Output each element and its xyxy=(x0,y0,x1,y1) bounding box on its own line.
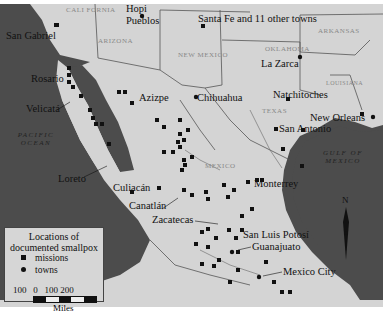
town-label: Natchitoches xyxy=(273,90,328,101)
town-label: Chihuahua xyxy=(197,93,243,104)
town-label: Canatlán xyxy=(129,201,166,212)
town-label: San Antonio xyxy=(279,124,331,135)
town-label: Culiacán xyxy=(113,183,150,194)
region-label: NEW MEXICO xyxy=(178,52,228,59)
town-label: Azizpe xyxy=(139,93,169,104)
ocean-label-pacific: PACIFIC OCEAN xyxy=(12,132,60,147)
legend-towns: towns xyxy=(35,265,58,275)
region-label: TEXAS xyxy=(262,108,287,115)
town-label: HopiPueblos xyxy=(126,3,166,27)
town-label: New Orleans xyxy=(310,113,365,124)
town-label: Monterrey xyxy=(254,179,298,190)
town-label: San Gabriel xyxy=(6,31,56,42)
town-label: Guanajuato xyxy=(252,242,300,253)
region-label: ARIZONA xyxy=(98,38,133,45)
region-label: OKLAHOMA xyxy=(265,46,310,53)
legend-title: Locations of documented smallpox xyxy=(5,231,103,253)
map-legend: Locations of documented smallpox mission… xyxy=(4,227,104,302)
scale-bar xyxy=(33,296,97,303)
region-label: LOUISIANA xyxy=(326,80,363,86)
ocean-label-gulf: GULF OF MEXICO xyxy=(316,150,370,165)
region-label: MEXICO xyxy=(205,163,236,170)
compass-north-label: N xyxy=(342,196,349,205)
town-label: Loreto xyxy=(58,174,86,185)
town-label: La Zarca xyxy=(261,59,299,70)
town-label: Velicatá xyxy=(26,104,60,115)
town-label: San Luis Potosí xyxy=(243,230,309,241)
town-label: Santa Fe and 11 other towns xyxy=(198,14,317,25)
scale-ticks: 100 0 100 200 xyxy=(13,285,74,295)
mission-icon xyxy=(21,255,26,260)
town-label: Mexico City xyxy=(283,267,336,278)
region-label: CALI FORNIA xyxy=(66,7,116,14)
town-label: Zacatecas xyxy=(152,215,193,226)
region-label: ARKANSAS xyxy=(318,28,360,35)
scale-unit: Miles xyxy=(53,303,74,313)
legend-missions: missions xyxy=(35,253,68,263)
town-label: Rosario xyxy=(31,74,64,85)
town-icon xyxy=(21,267,26,272)
